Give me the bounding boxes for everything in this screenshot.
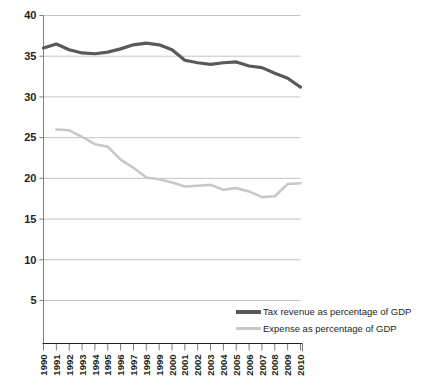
- x-axis-label-2006: 2006: [244, 355, 255, 376]
- x-axis-label-1998: 1998: [141, 355, 152, 376]
- y-axis-label-5: 5: [30, 294, 36, 306]
- x-axis-label-1992: 1992: [64, 355, 75, 376]
- y-axis-label-30: 30: [24, 91, 36, 103]
- x-axis-label-2005: 2005: [231, 354, 242, 376]
- x-axis-label-1995: 1995: [102, 354, 113, 376]
- x-axis-label-1994: 1994: [90, 354, 101, 376]
- x-axis-label-2009: 2009: [282, 355, 293, 376]
- x-axis-label-2003: 2003: [205, 355, 216, 376]
- x-axis-label-1999: 1999: [154, 355, 165, 376]
- series-line-tax-revenue: [44, 43, 301, 87]
- x-axis-label-1993: 1993: [77, 355, 88, 376]
- y-axis-label-40: 40: [24, 9, 36, 21]
- line-chart: 510152025303540 199019911992199319941995…: [0, 0, 428, 385]
- x-axis-label-1990: 1990: [38, 355, 49, 376]
- y-axis-label-20: 20: [24, 172, 36, 184]
- x-axis-label-2010: 2010: [295, 355, 306, 376]
- x-axis-label-2007: 2007: [257, 355, 268, 376]
- legend-label-1: Expense as percentage of GDP: [263, 323, 397, 334]
- data-series-group: [44, 43, 301, 197]
- chart-container: 510152025303540 199019911992199319941995…: [0, 0, 428, 385]
- y-tick-marks-group: [40, 16, 44, 301]
- x-axis-label-2000: 2000: [167, 355, 178, 376]
- y-axis-label-10: 10: [24, 254, 36, 266]
- gridlines-group: [44, 16, 301, 301]
- y-axis-label-15: 15: [24, 213, 36, 225]
- x-axis-label-2008: 2008: [269, 355, 280, 376]
- x-axis-label-2004: 2004: [218, 354, 229, 376]
- legend-label-0: Tax revenue as percentage of GDP: [263, 306, 411, 317]
- y-axis-label-25: 25: [24, 131, 36, 143]
- chart-legend: Tax revenue as percentage of GDPExpense …: [236, 306, 411, 334]
- y-axis-labels-group: 510152025303540: [24, 9, 36, 306]
- x-axis-label-1991: 1991: [51, 354, 62, 376]
- x-axis-label-2002: 2002: [192, 355, 203, 376]
- x-axis-label-1997: 1997: [128, 355, 139, 376]
- series-line-expense: [56, 130, 300, 198]
- x-axis-label-2001: 2001: [179, 354, 190, 376]
- x-axis-labels-group: 1990199119921993199419951996199719981999…: [38, 354, 306, 376]
- x-axis-label-1996: 1996: [115, 355, 126, 376]
- x-tick-marks-group: [44, 344, 301, 351]
- x-axis-line-group: [43, 344, 303, 352]
- y-axis-label-35: 35: [24, 50, 36, 62]
